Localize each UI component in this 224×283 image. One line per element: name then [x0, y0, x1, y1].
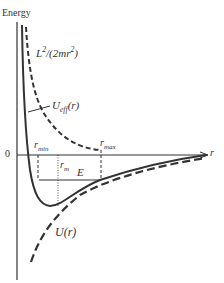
potential-label: U(r)	[55, 226, 76, 238]
r-min-label: rmin	[34, 140, 48, 153]
y-axis-label: Energy	[2, 8, 31, 18]
r-m-label: rm	[60, 160, 69, 173]
centrifugal-label: L2/(2mr2)	[36, 46, 78, 59]
ueff-leader-line	[28, 106, 50, 112]
effective-potential-label: Ueff(r)	[52, 100, 79, 114]
x-axis-label: r	[210, 148, 214, 158]
origin-label: 0	[5, 149, 10, 159]
r-max-label: rmax	[100, 138, 116, 151]
energy-E-label: E	[77, 167, 84, 178]
